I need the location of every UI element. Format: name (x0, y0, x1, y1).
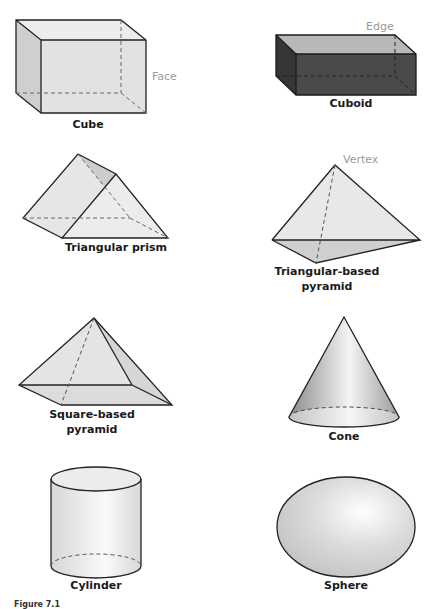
square-pyramid-shape (19, 318, 172, 405)
face-annotation: Face (152, 70, 177, 83)
cylinder-shape (51, 467, 141, 578)
vertex-annotation: Vertex (343, 153, 378, 166)
triangular-prism-label: Triangular prism (65, 241, 167, 255)
square-pyramid-label-line1: Square-based (49, 408, 135, 422)
cube-label: Cube (72, 118, 103, 132)
cuboid-shape (276, 35, 416, 95)
cone-label: Cone (329, 430, 360, 444)
sphere-label: Sphere (324, 579, 368, 593)
cuboid-label: Cuboid (330, 97, 373, 111)
triangular-pyramid-label-line2: pyramid (302, 280, 353, 294)
triangular-pyramid-shape (272, 165, 420, 263)
edge-annotation: Edge (366, 20, 394, 33)
cone-shape (289, 317, 399, 427)
square-pyramid-label-line2: pyramid (67, 423, 118, 437)
triangular-prism-shape (23, 154, 168, 238)
cylinder-label: Cylinder (70, 579, 121, 593)
triangular-pyramid-label-line1: Triangular-based (275, 265, 380, 279)
figure-caption: Figure 7.1 (14, 600, 60, 609)
sphere-shape (277, 477, 415, 577)
cube-shape (16, 20, 146, 113)
